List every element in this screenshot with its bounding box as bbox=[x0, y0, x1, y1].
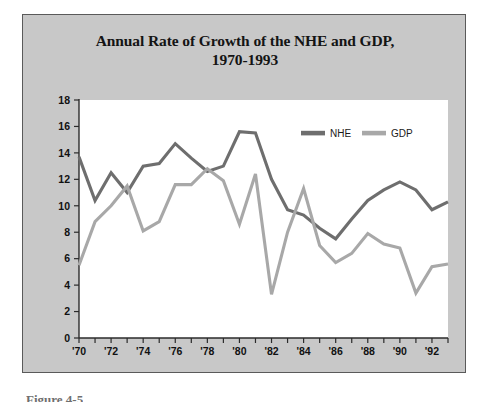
x-tick-label: '88 bbox=[361, 345, 375, 357]
y-tick-label: 10 bbox=[58, 200, 70, 212]
x-tick-label: '86 bbox=[329, 345, 343, 357]
figure-caption: Figure 4-5 bbox=[26, 390, 83, 402]
line-chart: 024681012141618 '70'72'74'76'78'80'82'84… bbox=[23, 15, 467, 374]
y-tick-label: 12 bbox=[58, 173, 70, 185]
legend-swatch-gdp bbox=[362, 131, 386, 136]
x-tick-label: '76 bbox=[168, 345, 182, 357]
x-tick-label: '90 bbox=[393, 345, 407, 357]
legend-swatch-nhe bbox=[301, 131, 325, 136]
y-tick-label: 2 bbox=[64, 305, 70, 317]
x-tick-label: '84 bbox=[297, 345, 311, 357]
y-tick-label: 6 bbox=[64, 252, 70, 264]
legend-label-gdp: GDP bbox=[391, 128, 413, 139]
y-tick-label: 16 bbox=[58, 120, 70, 132]
figure-panel: Annual Rate of Growth of the NHE and GDP… bbox=[22, 14, 466, 373]
y-tick-label: 4 bbox=[64, 279, 70, 291]
x-tick-label: '80 bbox=[232, 345, 246, 357]
y-tick-label: 14 bbox=[58, 147, 70, 159]
y-axis-ticks: 024681012141618 bbox=[58, 94, 79, 344]
plot-area: 024681012141618 '70'72'74'76'78'80'82'84… bbox=[23, 15, 467, 374]
legend-label-nhe: NHE bbox=[330, 128, 351, 139]
x-tick-label: '82 bbox=[264, 345, 278, 357]
x-tick-label: '92 bbox=[425, 345, 439, 357]
y-tick-label: 0 bbox=[64, 332, 70, 344]
x-tick-label: '78 bbox=[200, 345, 214, 357]
x-axis-ticks: '70'72'74'76'78'80'82'84'86'88'90'92 bbox=[72, 338, 448, 357]
x-tick-label: '70 bbox=[72, 345, 86, 357]
y-tick-label: 18 bbox=[58, 94, 70, 106]
x-tick-label: '72 bbox=[104, 345, 118, 357]
y-tick-label: 8 bbox=[64, 226, 70, 238]
x-tick-label: '74 bbox=[136, 345, 150, 357]
